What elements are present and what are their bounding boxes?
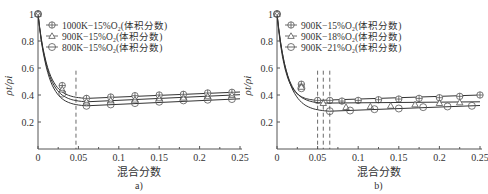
legend-entry: 1000K−15%O₂(体积分数)	[62, 20, 167, 32]
y-tick-label: 1	[29, 9, 34, 20]
legend-entry: 800K−15%O₂(体积分数)	[62, 42, 162, 54]
x-tick-label: 0.05	[309, 152, 327, 163]
y-tick-label: 0.4	[22, 90, 35, 101]
legend-entry: 900K−15%O₂(体积分数)	[62, 31, 162, 43]
y-tick-label: 0.2	[22, 117, 35, 128]
chart-panel-a: 00.050.10.150.20.250.20.40.60.81ρt/ρi混合分…	[2, 9, 249, 193]
x-tick-label: 0.15	[390, 152, 408, 163]
legend-entry: 900K−18%O₂(体积分数)	[301, 31, 401, 43]
x-axis-label: 混合分数	[117, 165, 161, 178]
x-tick-label: 0	[36, 152, 41, 163]
x-tick-label: 0.25	[231, 152, 249, 163]
y-tick-label: 1	[268, 9, 273, 20]
legend-entry: 900K−15%O₂(体积分数)	[301, 20, 401, 32]
x-axis-label: 混合分数	[357, 165, 401, 178]
y-tick-label: 0.4	[261, 90, 274, 101]
y-axis-label: ρt/ρi	[2, 76, 14, 97]
y-axis-label: ρt/ρi	[241, 76, 253, 97]
chart-panel-b: 00.050.10.150.20.250.20.40.60.81ρt/ρi混合分…	[241, 9, 488, 193]
panel-label: b)	[374, 180, 382, 192]
y-tick-label: 0.6	[22, 63, 35, 74]
x-tick-label: 0	[275, 152, 280, 163]
legend: 1000K−15%O₂(体积分数)900K−15%O₂(体积分数)800K−15…	[46, 20, 167, 54]
y-tick-label: 0.8	[22, 36, 35, 47]
x-tick-label: 0.15	[150, 152, 168, 163]
figure: 00.050.10.150.20.250.20.40.60.81ρt/ρi混合分…	[0, 0, 488, 194]
legend: 900K−15%O₂(体积分数)900K−18%O₂(体积分数)900K−21%…	[285, 20, 401, 54]
x-tick-label: 0.2	[433, 152, 446, 163]
y-tick-label: 0.6	[261, 63, 274, 74]
legend-entry: 900K−21%O₂(体积分数)	[301, 42, 401, 54]
x-tick-label: 0.1	[352, 152, 365, 163]
x-tick-label: 0.2	[193, 152, 206, 163]
x-tick-label: 0.05	[70, 152, 88, 163]
x-tick-label: 0.1	[113, 152, 126, 163]
y-tick-label: 0.8	[261, 36, 274, 47]
x-tick-label: 0.25	[471, 152, 488, 163]
panel-label: a)	[135, 180, 143, 192]
y-tick-label: 0.2	[261, 117, 274, 128]
